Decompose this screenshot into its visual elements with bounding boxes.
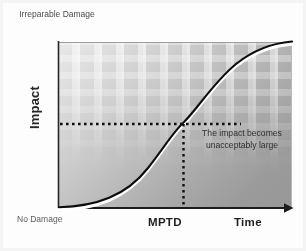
y-axis-top-label: Irreparable Damage xyxy=(18,9,96,20)
plot-vertical-gridlines xyxy=(58,42,292,208)
impact-annotation-text: The impact becomes unacceptably large xyxy=(189,127,295,151)
x-axis-title: Time xyxy=(234,216,262,228)
x-axis-mptd-label: MPTD xyxy=(148,216,182,228)
impact-over-time-chart: Irreparable Damage No Damage Impact MPTD… xyxy=(0,0,306,251)
plot-area xyxy=(58,42,292,208)
y-axis-bottom-label: No Damage xyxy=(17,214,62,224)
y-axis-title: Impact xyxy=(27,73,42,143)
plot-grid-pattern xyxy=(58,42,292,208)
